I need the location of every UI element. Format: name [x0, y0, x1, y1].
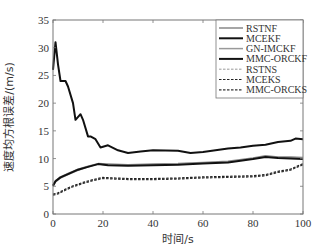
- x-tick-label: 0: [50, 217, 56, 229]
- x-tick-label: 20: [98, 217, 110, 229]
- x-tick-label: 60: [198, 217, 210, 229]
- x-tick-label: 80: [248, 217, 260, 229]
- series-line-gn-imckf: [53, 156, 303, 186]
- legend-entry: MMC-ORCKS: [246, 84, 307, 95]
- y-axis-label: 速度均方根误差/(m/s): [2, 62, 16, 171]
- chart: 02040608010005101520253035 时间/s 速度均方根误差/…: [0, 0, 327, 252]
- x-axis-label: 时间/s: [162, 233, 194, 246]
- series-line-rstns: [53, 164, 303, 195]
- y-tick-label: 30: [38, 42, 50, 54]
- x-tick-label: 100: [295, 217, 312, 229]
- y-tick-label: 5: [44, 180, 50, 192]
- y-tick-label: 25: [38, 69, 50, 81]
- y-tick-label: 15: [38, 125, 50, 137]
- y-tick-label: 0: [44, 208, 50, 220]
- series-line-mceks: [53, 164, 303, 194]
- y-tick-label: 35: [38, 14, 50, 26]
- y-tick-label: 10: [38, 153, 50, 165]
- y-tick-label: 20: [38, 97, 50, 109]
- x-tick-label: 40: [148, 217, 160, 229]
- legend: RSTNFMCEKFGN-IMCKFMMC-ORCKFRSTNSMCEKSMMC…: [216, 20, 308, 98]
